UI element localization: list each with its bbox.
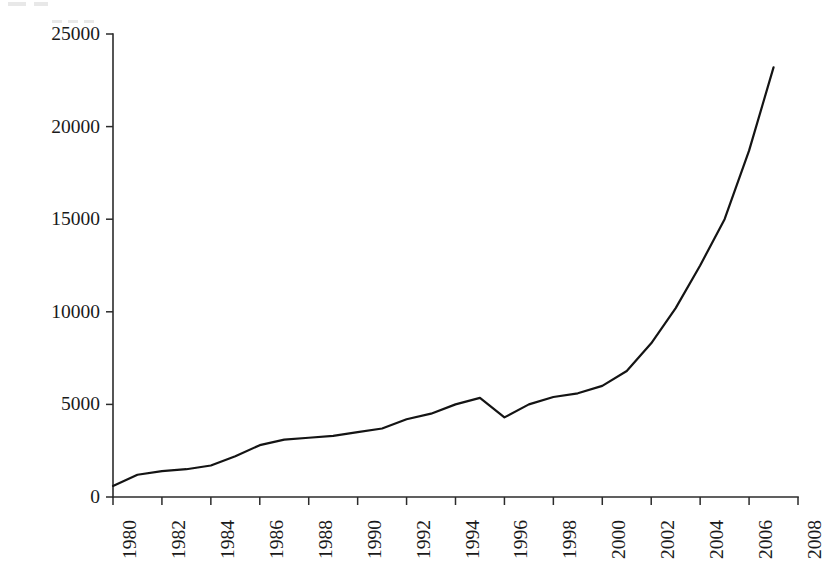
y-axis-ticks	[106, 34, 113, 497]
x-axis-ticks	[113, 497, 798, 505]
plot-area	[0, 0, 831, 565]
chart-figure: Ethanol Production (million liters per y…	[0, 0, 831, 565]
data-series-line	[113, 67, 774, 486]
